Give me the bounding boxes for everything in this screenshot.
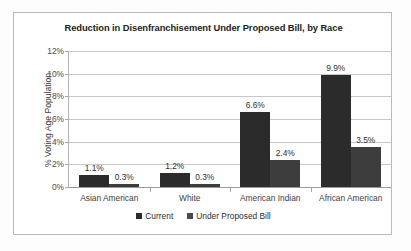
bar-group-bars: 1.2%0.3% xyxy=(150,51,231,187)
y-tick-label: 0% xyxy=(52,182,64,192)
bar-group-bars: 6.6%2.4% xyxy=(230,51,311,187)
legend-item[interactable]: Under Proposed Bill xyxy=(187,211,270,221)
x-axis-category-label: Asian American xyxy=(80,193,138,203)
bar-value-label: 0.3% xyxy=(115,172,134,182)
bar[interactable]: 1.2% xyxy=(160,173,190,187)
bar-value-label: 1.1% xyxy=(85,163,104,173)
bar[interactable]: 1.1% xyxy=(79,175,109,187)
bar-group: 1.1%0.3% xyxy=(69,51,150,187)
plot-area: 0%2%4%6%8%10%12% 1.1%0.3%1.2%0.3%6.6%2.4… xyxy=(69,51,391,187)
bar-group: 9.9%3.5% xyxy=(311,51,392,187)
x-axis-category-label: American Indian xyxy=(240,193,301,203)
chart-legend: CurrentUnder Proposed Bill xyxy=(14,211,393,221)
y-tick-label: 12% xyxy=(47,46,64,56)
x-axis-category-label: White xyxy=(179,193,200,203)
bar-group: 1.2%0.3% xyxy=(150,51,231,187)
category-separator-tick xyxy=(230,187,231,192)
chart-frame: Reduction in Disenfranchisement Under Pr… xyxy=(13,12,392,235)
legend-label: Current xyxy=(145,211,173,221)
bar[interactable]: 6.6% xyxy=(240,112,270,187)
x-axis-category-label: African American xyxy=(319,193,382,203)
bar-group-bars: 1.1%0.3% xyxy=(69,51,150,187)
y-tick-label: 4% xyxy=(52,137,64,147)
category-separator-tick xyxy=(150,187,151,192)
bar-value-label: 9.9% xyxy=(326,63,345,73)
bar[interactable]: 2.4% xyxy=(270,160,300,187)
bar-value-label: 2.4% xyxy=(276,148,295,158)
x-axis-labels: Asian AmericanWhiteAmerican IndianAfrica… xyxy=(69,193,391,207)
bar-group: 6.6%2.4% xyxy=(230,51,311,187)
bar[interactable]: 0.3% xyxy=(109,184,139,187)
y-tick-label: 8% xyxy=(52,91,64,101)
legend-label: Under Proposed Bill xyxy=(196,211,270,221)
plot-inner: 0%2%4%6%8%10%12% 1.1%0.3%1.2%0.3%6.6%2.4… xyxy=(69,51,391,187)
bar-value-label: 1.2% xyxy=(165,161,184,171)
bar-value-label: 3.5% xyxy=(356,135,375,145)
scanned-page-background: Reduction in Disenfranchisement Under Pr… xyxy=(0,0,411,251)
legend-item[interactable]: Current xyxy=(136,211,173,221)
bar[interactable]: 3.5% xyxy=(351,147,381,187)
y-tick-mark xyxy=(65,187,69,188)
bar[interactable]: 0.3% xyxy=(190,184,220,187)
y-tick-label: 10% xyxy=(47,69,64,79)
chart-title: Reduction in Disenfranchisement Under Pr… xyxy=(14,22,393,33)
legend-swatch-icon xyxy=(136,213,142,219)
bar-group-bars: 9.9%3.5% xyxy=(311,51,392,187)
bar-value-label: 6.6% xyxy=(246,100,265,110)
category-separator-tick xyxy=(311,187,312,192)
y-tick-label: 6% xyxy=(52,114,64,124)
y-tick-label: 2% xyxy=(52,159,64,169)
bar[interactable]: 9.9% xyxy=(321,75,351,187)
legend-swatch-icon xyxy=(187,213,193,219)
bar-value-label: 0.3% xyxy=(195,172,214,182)
